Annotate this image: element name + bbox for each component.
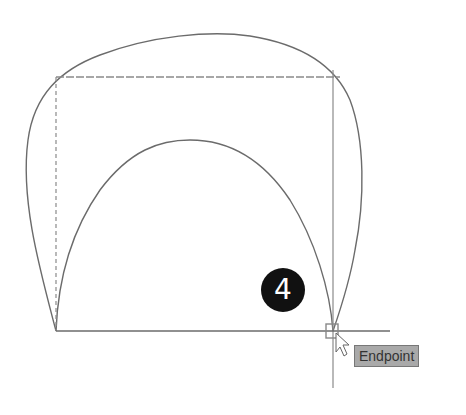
outer-arc <box>26 34 362 331</box>
step-number-badge: 4 <box>261 268 305 312</box>
cursor-arrow-icon <box>336 333 349 356</box>
endpoint-snap-tooltip: Endpoint <box>354 345 419 367</box>
